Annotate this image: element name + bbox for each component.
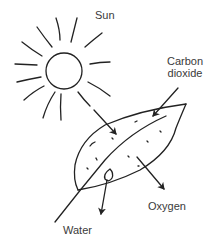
water-label: Water	[63, 224, 92, 236]
carbon-dioxide-label-line2: dioxide	[162, 67, 208, 79]
diagram-artwork	[0, 0, 209, 252]
sun-label: Sun	[95, 9, 115, 21]
oxygen-arrow	[137, 157, 164, 189]
carbon-dioxide-label: Carbon dioxide	[162, 55, 208, 79]
photosynthesis-diagram: Sun Carbon dioxide Oxygen Water	[0, 0, 209, 252]
oxygen-label: Oxygen	[148, 200, 186, 212]
carbon-dioxide-label-line1: Carbon	[162, 55, 208, 67]
carbon-dioxide-arrow	[153, 88, 178, 116]
sun-icon	[15, 18, 110, 120]
